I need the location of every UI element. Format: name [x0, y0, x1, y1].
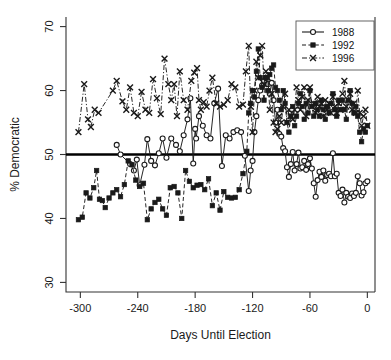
data-point-1988-67 — [307, 156, 312, 161]
data-point-1992-26 — [172, 184, 176, 188]
x-tick-label--120: -120 — [242, 302, 264, 314]
data-point-1992-61 — [275, 88, 279, 92]
data-point-1988-35 — [246, 188, 251, 193]
y-tick-label-40: 40 — [43, 212, 55, 224]
data-point-1992-33 — [199, 182, 203, 186]
data-point-1992-46 — [247, 111, 251, 115]
data-point-1988-19 — [191, 161, 196, 166]
data-point-1992-39 — [222, 189, 226, 193]
data-point-1992-37 — [214, 191, 218, 195]
chart-figure: 3040506070-300-240-180-120-600Days Until… — [0, 0, 391, 360]
data-point-1988-12 — [164, 155, 169, 160]
data-point-1988-13 — [169, 136, 174, 141]
data-point-1988-4 — [134, 157, 139, 162]
data-point-1988-93 — [357, 181, 362, 186]
data-point-1992-11 — [115, 187, 119, 191]
data-point-1992-59 — [271, 63, 275, 67]
data-point-1988-30 — [227, 136, 232, 141]
data-point-1988-95 — [361, 190, 366, 195]
data-point-1996-105 — [361, 113, 367, 119]
data-point-1992-45 — [245, 149, 249, 153]
data-point-1988-60 — [294, 162, 299, 167]
data-point-1992-35 — [206, 177, 210, 181]
legend-label-1996: 1996 — [332, 53, 355, 64]
data-point-1988-61 — [296, 150, 301, 155]
data-point-1988-8 — [149, 158, 154, 163]
data-point-1992-24 — [164, 213, 168, 217]
data-point-1992-20 — [149, 207, 153, 211]
data-point-1996-15 — [146, 110, 152, 116]
data-point-1996-70 — [294, 84, 300, 90]
x-tick-label--240: -240 — [127, 302, 149, 314]
data-point-1992-7 — [100, 198, 104, 202]
data-point-1996-27 — [188, 78, 194, 84]
data-point-1988-11 — [160, 136, 165, 141]
data-point-1996-8 — [120, 99, 126, 105]
data-point-1988-70 — [313, 194, 318, 199]
data-point-1992-36 — [210, 203, 214, 207]
data-point-1996-7 — [114, 78, 120, 84]
data-point-1988-1 — [118, 152, 123, 157]
data-point-1996-62 — [278, 120, 284, 126]
plot-canvas: 3040506070-300-240-180-120-600Days Until… — [0, 0, 391, 360]
data-point-1992-97 — [344, 117, 348, 121]
data-point-1988-66 — [306, 162, 311, 167]
y-tick-label-50: 50 — [43, 148, 55, 160]
data-point-1988-59 — [292, 168, 297, 173]
data-point-1992-22 — [157, 197, 161, 201]
data-point-1992-8 — [103, 205, 107, 209]
x-axis-title: Days Until Election — [170, 328, 271, 342]
data-point-1992-16 — [134, 178, 138, 182]
data-point-1988-57 — [288, 162, 293, 167]
data-point-1988-0 — [114, 142, 119, 147]
data-point-1992-44 — [241, 171, 245, 175]
data-point-1988-79 — [330, 151, 335, 156]
x-tick-label--180: -180 — [184, 302, 206, 314]
data-point-1996-6 — [110, 88, 116, 94]
data-point-1992-30 — [187, 179, 191, 183]
data-point-1988-22 — [196, 114, 201, 119]
data-point-1992-70 — [292, 124, 296, 128]
data-point-1988-68 — [309, 166, 314, 171]
data-point-1988-10 — [156, 151, 161, 156]
data-point-1992-54 — [262, 98, 266, 102]
data-point-1992-12 — [118, 195, 122, 199]
y-axis-title: % Democratic — [8, 117, 22, 192]
data-point-1996-1 — [81, 81, 87, 87]
data-point-1988-58 — [290, 149, 295, 154]
data-point-1988-97 — [365, 179, 370, 184]
data-point-1996-54 — [263, 68, 269, 74]
data-point-1988-56 — [286, 174, 291, 179]
data-point-1996-5 — [96, 110, 102, 116]
data-point-1988-9 — [152, 163, 157, 168]
data-point-1988-65 — [304, 167, 309, 172]
data-point-1988-23 — [200, 123, 205, 128]
data-point-1992-4 — [92, 186, 96, 190]
data-point-1988-92 — [355, 174, 360, 179]
data-point-1988-47 — [269, 80, 274, 85]
data-point-1992-9 — [107, 196, 111, 200]
data-point-1988-81 — [334, 171, 339, 176]
data-point-1988-91 — [353, 190, 358, 195]
x-tick-label-0: 0 — [364, 302, 370, 314]
data-point-1996-39 — [225, 97, 231, 103]
data-point-1988-28 — [219, 164, 224, 169]
x-tick-label--300: -300 — [69, 302, 91, 314]
y-tick-label-60: 60 — [43, 84, 55, 96]
data-point-1988-85 — [342, 200, 347, 205]
data-point-1988-27 — [216, 86, 221, 91]
data-point-1988-14 — [174, 142, 179, 147]
data-point-1988-20 — [193, 126, 198, 131]
data-point-1992-105 — [359, 140, 363, 144]
data-point-1988-54 — [283, 149, 288, 154]
data-point-1988-6 — [142, 162, 147, 167]
data-point-1988-17 — [185, 117, 190, 122]
legend-label-1992: 1992 — [332, 40, 355, 51]
y-tick-label-30: 30 — [43, 276, 55, 288]
data-point-1988-21 — [194, 136, 199, 141]
data-point-1992-15 — [130, 163, 134, 167]
x-tick-label--60: -60 — [302, 302, 318, 314]
data-point-1988-37 — [250, 158, 255, 163]
legend-label-1988: 1988 — [332, 27, 355, 38]
data-point-1992-34 — [203, 187, 207, 191]
